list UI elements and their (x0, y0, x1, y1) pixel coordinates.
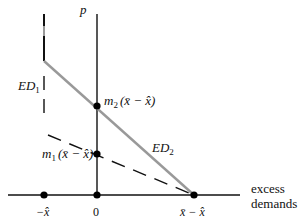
y-axis-label: p (79, 2, 87, 17)
x-axis-label-line2: demands (251, 196, 297, 211)
ed2-curve (44, 61, 194, 195)
tick-label-neg-xhat: −x̂ (36, 205, 50, 219)
point-origin (93, 191, 100, 198)
excess-demand-diagram: p ED1 ED2 m2(x̄ − x̂) m1(x̄ − x̂) −x̂ 0 … (0, 0, 302, 224)
ed2-label: ED2 (151, 140, 174, 157)
point-m2 (93, 102, 100, 109)
tick-label-xbar-minus-xhat: x̄ − x̂ (179, 205, 205, 219)
point-xbar-minus-xhat (190, 191, 197, 198)
tick-label-zero: 0 (93, 205, 99, 219)
point-neg-xhat (40, 191, 47, 198)
point-m1 (93, 150, 100, 157)
ed1-label: ED1 (17, 78, 40, 95)
m1-label: m1(x̄ − x̂) (42, 146, 93, 163)
m2-label: m2(x̄ − x̂) (104, 93, 155, 110)
ed1-curve (48, 135, 194, 195)
x-axis-label-line1: excess (251, 181, 285, 196)
